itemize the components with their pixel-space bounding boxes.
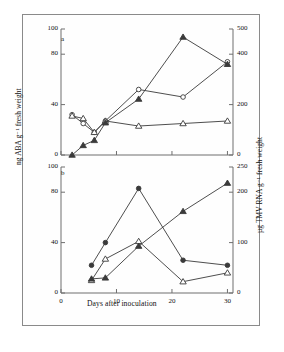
axis-tick-label: 100 [36,162,58,170]
axis-tick-label: 500 [237,24,248,32]
axis-tick-label: 100 [36,24,58,32]
series-open-circle-series [70,59,230,134]
axis-tick-label: 80 [36,49,58,57]
y-axis-label-right: µg TMV RNA g⁻¹ fresh weight [255,137,264,233]
series-filled-triangle-series [88,180,230,281]
x-axis-tick-label: 10 [110,297,122,305]
axis-tick-label: 200 [237,100,248,108]
x-axis-tick-label: 20 [166,297,178,305]
series-open-triangle-series [88,238,230,284]
axis-tick-label: 0 [36,150,58,158]
axis-tick-label: 0 [237,288,241,296]
panel-a-letter: a [61,35,64,43]
panel-b-letter: b [61,169,65,177]
series-filled-circle-series [89,186,230,267]
series-filled-triangle-series [69,34,231,157]
axis-tick-label: 0 [36,288,58,296]
axis-tick-label: 40 [36,100,58,108]
x-axis-tick-label: 30 [221,297,233,305]
figure-frame: ng ABA g⁻¹ fresh weight µg TMV RNA g⁻¹ f… [22,14,260,326]
axis-tick-label: 100 [237,238,248,246]
axis-tick-label: 400 [237,49,248,57]
axis-tick-label: 80 [36,187,58,195]
series-open-triangle-series [69,113,231,135]
axis-tick-label: 40 [36,238,58,246]
axis-tick-label: 200 [237,187,248,195]
axis-tick-label: 250 [237,162,248,170]
chart-canvas [23,15,261,327]
axis-tick-label: 0 [237,150,241,158]
y-axis-label-left: ng ABA g⁻¹ fresh weight [14,88,23,165]
x-axis-tick-label: 0 [55,297,67,305]
